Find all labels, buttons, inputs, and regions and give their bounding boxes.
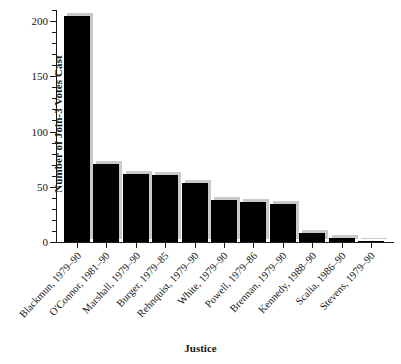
y-axis-line (56, 10, 57, 243)
x-tick-label: Burger, 1979–85 (115, 250, 171, 309)
x-tick (342, 243, 343, 248)
bar (93, 164, 119, 242)
bar (329, 238, 355, 242)
y-tick-minor (52, 120, 56, 121)
x-tick (253, 243, 254, 248)
bar (123, 174, 149, 242)
y-tick-minor (52, 165, 56, 166)
y-tick-minor (52, 65, 56, 66)
y-tick-major (50, 187, 56, 188)
x-tick (371, 243, 372, 248)
plot-area: 050100150200 (56, 10, 394, 243)
bar-chart-figure: Number of Join-3 Votes Cast 050100150200… (0, 0, 401, 364)
bar-body (358, 241, 384, 242)
y-tick-minor (52, 10, 56, 11)
y-tick-minor (52, 154, 56, 155)
y-tick-minor (52, 209, 56, 210)
y-tick-minor (52, 143, 56, 144)
y-tick-major (50, 242, 56, 243)
bar (64, 16, 90, 242)
y-tick-label: 50 (37, 181, 48, 193)
bar (270, 204, 296, 242)
x-axis-title: Justice (0, 342, 401, 354)
y-tick-minor (52, 54, 56, 55)
y-tick-minor (52, 198, 56, 199)
y-tick-minor (52, 32, 56, 33)
x-tick (224, 243, 225, 248)
bar-body (211, 200, 237, 242)
x-tick (106, 243, 107, 248)
bar-body (64, 16, 90, 242)
x-tick (312, 243, 313, 248)
y-tick-minor (52, 98, 56, 99)
y-tick-minor (52, 231, 56, 232)
y-tick-minor (52, 43, 56, 44)
y-tick-label: 200 (32, 15, 49, 27)
bar (240, 202, 266, 242)
y-tick-minor (52, 176, 56, 177)
bar-body (182, 183, 208, 242)
x-tick (283, 243, 284, 248)
x-tick (195, 243, 196, 248)
x-tick (165, 243, 166, 248)
y-tick-minor (52, 220, 56, 221)
y-tick-major (50, 21, 56, 22)
x-tick (77, 243, 78, 248)
y-tick-major (50, 76, 56, 77)
x-tick-label: Stevens, 1979–90 (318, 250, 377, 312)
y-tick-label: 0 (43, 236, 49, 248)
y-tick-label: 100 (32, 126, 49, 138)
bar-body (152, 175, 178, 242)
bar-body (93, 164, 119, 242)
bar-body (329, 238, 355, 242)
bar (211, 200, 237, 242)
bar (182, 183, 208, 242)
y-tick-minor (52, 109, 56, 110)
y-tick-label: 150 (32, 70, 49, 82)
bar-body (123, 174, 149, 242)
bar (299, 233, 325, 242)
y-tick-minor (52, 87, 56, 88)
bar-body (270, 204, 296, 242)
bar-shadow (361, 238, 387, 239)
bar-body (299, 233, 325, 242)
bar (358, 241, 384, 242)
bar (152, 175, 178, 242)
bar-body (240, 202, 266, 242)
x-tick (136, 243, 137, 248)
y-tick-major (50, 132, 56, 133)
